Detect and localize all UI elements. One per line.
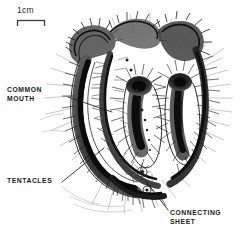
- bud-upper: [133, 163, 151, 181]
- scale-bar: [17, 21, 45, 27]
- label-connecting-sheet: CONNECTING SHEET: [170, 209, 247, 225]
- scale-bar-label: 1cm: [17, 5, 34, 15]
- label-tentacles: TENTACLES: [7, 177, 52, 186]
- illustration-figure: 1cm COMMON MOUTH TENTACLES CONNECTING SH…: [0, 0, 247, 225]
- organism-artwork: [0, 0, 247, 225]
- label-common-mouth: COMMON MOUTH: [7, 86, 42, 104]
